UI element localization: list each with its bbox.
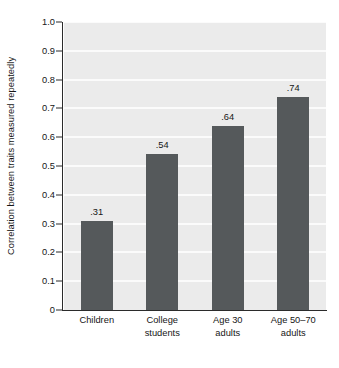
- y-axis-title-text: Correlation between traits measured repe…: [6, 57, 16, 255]
- x-axis-tick-label: Children: [79, 314, 114, 327]
- bar[interactable]: [212, 126, 244, 310]
- x-axis-tick-label-line: College: [145, 314, 180, 327]
- bar[interactable]: [146, 154, 178, 310]
- x-axis-tick-label-line: Age 30: [213, 314, 242, 327]
- x-axis-tick-label: Age 50–70adults: [271, 314, 316, 339]
- bar-value-label: .64: [221, 112, 234, 122]
- x-axis-tick-label-line: Children: [79, 314, 114, 327]
- bar-chart: Correlation between traits measured repe…: [0, 0, 339, 368]
- y-axis-tick-label: 0.8: [42, 75, 55, 85]
- bar-value-label: .74: [287, 83, 300, 93]
- bars-layer: .31.54.64.74: [64, 22, 326, 310]
- y-axis-tick-label: 0.7: [42, 103, 55, 113]
- bar-value-label: .31: [90, 207, 103, 217]
- bar[interactable]: [277, 97, 309, 310]
- x-axis-tick-label-line: adults: [213, 327, 242, 340]
- y-axis-tick-label: 0.5: [42, 161, 55, 171]
- x-axis-tick-label-line: adults: [271, 327, 316, 340]
- y-axis-tick-label: 0.3: [42, 219, 55, 229]
- y-axis-tick-labels: 1.00.90.80.70.60.50.40.30.20.10: [22, 0, 60, 368]
- x-axis-tick-label: Age 30adults: [213, 314, 242, 339]
- y-axis-tick-label: 0.1: [42, 276, 55, 286]
- x-axis-tick-label-line: students: [145, 327, 180, 340]
- bar-value-label: .54: [156, 140, 169, 150]
- x-axis-tick-label: Collegestudents: [145, 314, 180, 339]
- y-axis-tick-label: 1.0: [42, 17, 55, 27]
- x-axis-tick-label-line: Age 50–70: [271, 314, 316, 327]
- y-axis-tick-label: 0.2: [42, 247, 55, 257]
- x-axis-line: [62, 310, 327, 311]
- bar[interactable]: [81, 221, 113, 310]
- y-axis-tick-label: 0.9: [42, 46, 55, 56]
- x-axis-tick-labels: ChildrenCollegestudentsAge 30adultsAge 5…: [64, 314, 326, 366]
- y-axis-title: Correlation between traits measured repe…: [0, 0, 22, 312]
- y-axis-tick-label: 0.6: [42, 132, 55, 142]
- y-axis-tick-label: 0.4: [42, 190, 55, 200]
- y-axis-tick-label: 0: [50, 305, 55, 315]
